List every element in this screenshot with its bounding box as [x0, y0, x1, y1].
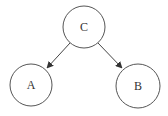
diagram-canvas: C A B [0, 0, 168, 116]
node-c-label: C [80, 20, 88, 34]
node-a: A [10, 64, 52, 106]
edge-c-to-b [98, 43, 122, 68]
node-b: B [116, 64, 160, 108]
node-c: C [63, 6, 105, 48]
node-a-label: A [27, 78, 36, 92]
node-b-label: B [134, 79, 142, 93]
edge-c-to-a [47, 43, 70, 68]
